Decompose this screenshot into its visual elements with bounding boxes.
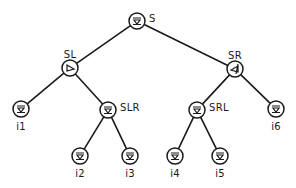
node-circle	[72, 148, 88, 164]
tree-node-i6: i6	[268, 101, 284, 132]
node-label: i6	[271, 121, 281, 132]
tree-node-srl: SRL	[189, 102, 229, 118]
edge-srl-i5	[201, 117, 217, 149]
tree-node-s: S	[129, 13, 156, 29]
node-label: i2	[75, 168, 85, 179]
tree-node-i5: i5	[212, 148, 228, 179]
edge-slr-i3	[111, 117, 126, 149]
tree-node-sl: SL	[62, 49, 78, 76]
edge-slr-i2	[84, 117, 104, 149]
edge-sr-i6	[241, 75, 271, 104]
node-label: i1	[16, 121, 26, 132]
node-circle	[167, 148, 183, 164]
tree-node-i1: i1	[13, 101, 29, 132]
node-label: i4	[170, 168, 180, 179]
binary-tree-diagram: SSLSRi1SLRSRLi6i2i3i4i5	[0, 0, 296, 188]
edge-sl-slr	[75, 74, 102, 104]
node-label: SRL	[209, 102, 229, 113]
edge-s-sr	[144, 25, 228, 66]
node-circle	[212, 148, 228, 164]
node-circle	[268, 101, 284, 117]
node-circle	[13, 101, 29, 117]
node-label: i5	[215, 168, 225, 179]
node-circle	[100, 102, 116, 118]
tree-node-i4: i4	[167, 148, 183, 179]
edge-sl-i1	[27, 73, 64, 104]
node-circle	[189, 102, 205, 118]
tree-node-i3: i3	[122, 148, 138, 179]
edge-sr-srl	[202, 75, 229, 104]
tree-nodes: SSLSRi1SLRSRLi6i2i3i4i5	[13, 13, 284, 179]
node-circle	[62, 60, 78, 76]
node-label: i3	[125, 168, 135, 179]
node-label: SL	[64, 49, 77, 60]
node-label: SR	[228, 50, 242, 61]
edge-srl-i4	[178, 117, 193, 149]
node-circle	[227, 61, 243, 77]
edge-s-sl	[77, 26, 131, 64]
node-circle	[122, 148, 138, 164]
tree-node-sr: SR	[227, 50, 243, 77]
tree-edges	[27, 25, 270, 150]
tree-node-slr: SLR	[100, 102, 140, 118]
node-circle	[129, 13, 145, 29]
tree-node-i2: i2	[72, 148, 88, 179]
node-label: SLR	[120, 102, 140, 113]
node-label: S	[149, 13, 156, 24]
